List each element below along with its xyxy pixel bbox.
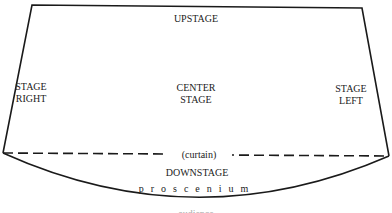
audience-label-partial: audience [166, 208, 226, 213]
stage-left-line1: STAGE [326, 83, 376, 95]
stage-left-label: STAGE LEFT [326, 83, 376, 107]
downstage-label: DOWNSTAGE [151, 167, 243, 179]
stage-left-line2: LEFT [326, 95, 376, 107]
upstage-label: UPSTAGE [166, 13, 226, 25]
stage-walls [3, 5, 389, 156]
stage-right-label: STAGE RIGHT [11, 81, 51, 105]
proscenium-label: proscenium [136, 183, 258, 195]
curtain-line-right [224, 155, 389, 156]
center-stage-line1: CENTER [166, 82, 226, 94]
stage-right-line2: RIGHT [11, 93, 51, 105]
curtain-line-left [3, 153, 170, 154]
stage-right-line1: STAGE [11, 81, 51, 93]
curtain-label: (curtain) [166, 149, 232, 161]
center-stage-line2: STAGE [166, 94, 226, 106]
center-stage-label: CENTER STAGE [166, 82, 226, 106]
